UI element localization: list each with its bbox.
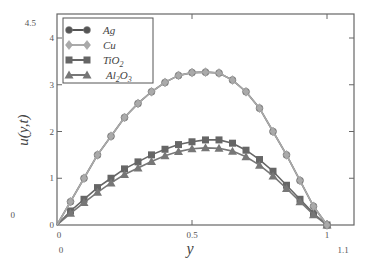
legend-label: Cu [103, 39, 116, 51]
x-axis-label: y [184, 240, 194, 258]
y-tick-label: 0 [50, 220, 55, 230]
y-max-label: 4.5 [25, 18, 37, 28]
y-tick-label: 1 [50, 173, 55, 183]
chart: 012344.5000.5101.1 u(y,t) y AgCuTiO2Al2O… [0, 0, 373, 269]
y-min-label: 0 [11, 210, 16, 220]
x-tick-label: 0.5 [186, 230, 198, 240]
y-tick-label: 4 [50, 33, 55, 43]
legend-label: Ag [102, 24, 116, 36]
x-tick-label: 1 [325, 230, 330, 240]
x-tick-label: 0 [57, 230, 62, 240]
x-min-label: 0 [59, 245, 64, 255]
x-max-label: 1.1 [337, 245, 348, 255]
legend: AgCuTiO2Al2O3 [63, 18, 153, 84]
y-tick-label: 2 [50, 127, 55, 137]
y-axis-label: u(y,t) [15, 114, 32, 145]
y-tick-label: 3 [50, 80, 55, 90]
